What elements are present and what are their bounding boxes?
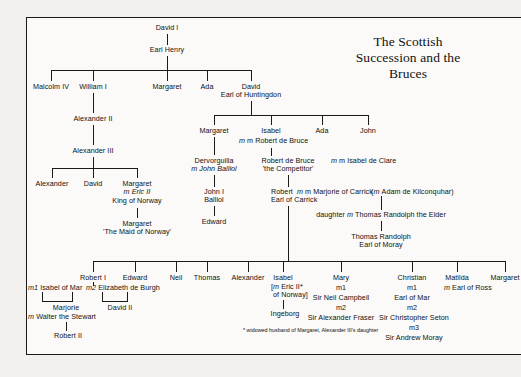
- line-william-i-to-alexander-ii: [93, 93, 94, 113]
- drop-marjorie-right: [72, 292, 73, 302]
- line-margaret-to-maid-of-norway: [137, 208, 138, 218]
- drop-malcolm-iv: [51, 70, 52, 81]
- footnote: * widowed husband of Margaret, Alexander…: [243, 327, 378, 334]
- node-kilconquhar-text: Adam de Kilconquhar): [382, 187, 454, 196]
- node-christian-marriage-1-marker: m1: [407, 284, 417, 292]
- drop-ada-1: [207, 70, 208, 81]
- node-john-i-balliol: John I Balliol: [204, 188, 224, 205]
- drop-david-ii-right: [127, 292, 128, 302]
- node-john-balliol-surname: Balliol: [204, 196, 224, 204]
- node-mary-husband-2: Sir Alexander Fraser: [308, 314, 375, 322]
- node-christian-husband-1: Earl of Mar: [394, 294, 430, 302]
- drop-isabel-bruce: [283, 261, 284, 272]
- node-thomas-randolph-title: Earl of Moray: [351, 241, 410, 249]
- node-edward-bruce: Edward: [123, 274, 148, 282]
- node-daughter-label: daughter: [316, 210, 347, 219]
- node-adam-de-kilconquhar: (m (m Adam de Kilconquhar)Adam de Kilcon…: [371, 188, 454, 196]
- node-alexander-son: Alexander: [36, 180, 69, 188]
- drop-thomas-bruce: [207, 261, 208, 272]
- node-ingeborg: Ingeborg: [271, 310, 300, 318]
- node-david-huntingdon-title: Earl of Huntingdon: [221, 91, 281, 99]
- drop-edward-bruce: [135, 261, 136, 272]
- drop-margaret-norway: [137, 168, 138, 178]
- node-margaret-queen-of-norway: Margaret m Eric II King of Norway: [112, 180, 161, 205]
- node-matilda-bruce: Matilda: [445, 274, 469, 282]
- node-competitor-epithet: 'the Competitor': [261, 165, 314, 173]
- node-margaret-norway-title: King of Norway: [112, 197, 161, 205]
- marriage-marker-competitor: m: [331, 156, 339, 165]
- node-mary-bruce: Mary: [333, 274, 349, 282]
- node-christian-marriage-3-marker: m3: [409, 324, 419, 332]
- drop-margaret-1: [167, 70, 168, 81]
- marriage-marker-carrick: m: [297, 187, 305, 196]
- drop-william-i: [93, 70, 94, 81]
- marriage-marker-randolph: m: [347, 210, 355, 219]
- drop-margaret-bruce: [505, 261, 506, 272]
- marriage-marker-robert-m1: m1: [28, 283, 40, 292]
- node-robert-i-marriage-2: m2 Elizabeth de Burgh: [86, 284, 160, 292]
- node-alexander-iii: Alexander III: [72, 147, 113, 155]
- node-maid-epithet: 'The Maid of Norway': [103, 228, 171, 236]
- line-kilconquhar-to-daughter: [381, 196, 382, 210]
- node-isabel-huntingdon: Isabel: [261, 127, 280, 135]
- node-ada-2: Ada: [316, 127, 329, 135]
- marriage-marker-marjorie: m: [28, 312, 36, 321]
- node-malcolm-iv: Malcolm IV: [33, 83, 69, 91]
- node-marjorie-husband: Walter the Stewart: [36, 312, 96, 321]
- line-daughter-to-thomas-randolph: [381, 221, 382, 231]
- node-john-huntingdon: John: [360, 127, 376, 135]
- node-isabel-de-clare: m m Isabel de Clare: [331, 157, 396, 165]
- node-margaret-bruce: Margaret: [490, 274, 519, 282]
- node-alexander-ii: Alexander II: [74, 115, 113, 123]
- node-thomas-bruce: Thomas: [194, 274, 220, 282]
- node-alexander-bruce: Alexander: [232, 274, 265, 282]
- marriage-marker-isabel: m: [239, 136, 247, 145]
- footnote-line-2: Alexander III's daughter: [322, 327, 379, 333]
- node-christian-bruce: Christian: [398, 274, 427, 282]
- drop-robert-i: [93, 261, 94, 272]
- node-robert-ii: Robert II: [54, 332, 82, 340]
- drop-matilda-bruce: [457, 261, 458, 272]
- line-david-i-to-earl-henry: [167, 34, 168, 45]
- node-robert-i-marriage-1: m1 Isabel of Mar: [28, 284, 82, 292]
- node-mary-marriage-1-marker: m1: [336, 284, 346, 292]
- node-margaret-huntingdon: Margaret: [199, 127, 228, 135]
- node-mary-husband-1: Sir Neil Campbell: [313, 294, 369, 302]
- line-isabel-to-ingeborg: [283, 300, 284, 309]
- node-maid-of-norway: Margaret 'The Maid of Norway': [103, 220, 171, 237]
- node-christian-marriage-2-marker: m2: [407, 304, 417, 312]
- node-robert-i-wife-2: Elizabeth de Burgh: [98, 283, 160, 292]
- node-neil-bruce: Neil: [170, 274, 183, 282]
- line-marjorie-to-robert-ii: [66, 322, 67, 331]
- footnote-line-1: * widowed husband of Margaret,: [243, 327, 320, 333]
- node-isabel-marriage-robert-de-bruce: m m Robert de Bruce: [239, 137, 308, 145]
- node-marjorie-marriage: m Walter the Stewart: [28, 313, 96, 321]
- node-david-son: David: [84, 180, 103, 188]
- node-randolph-elder: Thomas Randolph the Elder: [355, 210, 446, 219]
- node-margaret-1: Margaret: [152, 83, 181, 91]
- node-marjorie-of-carrick: m m Marjorie of Carrick: [297, 188, 373, 196]
- line-huntingdon-down: [251, 101, 252, 116]
- drop-alexander-bruce: [248, 261, 249, 272]
- node-edward-balliol: Edward: [202, 218, 227, 226]
- line-dervorguilla-to-john-balliol: [214, 175, 215, 187]
- drop-christian-bruce: [412, 261, 413, 272]
- node-christian-husband-2: Sir Christopher Seton: [379, 314, 449, 322]
- node-daughter-thomas-randolph-elder: daughter m Thomas Randolph the Elder: [316, 211, 446, 219]
- drop-david-huntingdon: [251, 70, 252, 81]
- marriage-marker-kilconquhar: m: [373, 187, 381, 196]
- node-robert-de-bruce-competitor: Robert de Bruce 'the Competitor': [261, 157, 314, 174]
- node-matilda-marriage: m Earl of Ross: [444, 284, 492, 292]
- node-dervorguilla-marriage: m John Balliol: [191, 165, 236, 173]
- node-earl-henry: Earl Henry: [150, 46, 184, 54]
- node-david-i: David I: [156, 24, 179, 32]
- node-christian-husband-3: Sir Andrew Moray: [385, 334, 443, 342]
- line-isabel-to-competitor: [271, 148, 272, 156]
- drop-isabel-hunt: [271, 115, 272, 125]
- drop-john-hunt: [368, 115, 369, 125]
- node-ada-1: Ada: [201, 83, 214, 91]
- drop-mary-bruce: [341, 261, 342, 272]
- node-david-earl-of-huntingdon: David Earl of Huntingdon: [221, 83, 281, 100]
- node-william-i: William I: [79, 83, 107, 91]
